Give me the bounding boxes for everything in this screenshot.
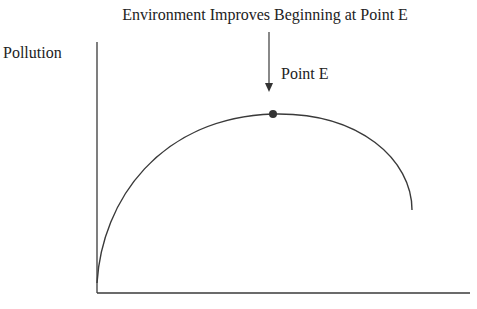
point-e-label: Point E	[281, 65, 329, 82]
y-axis-label: Pollution	[3, 44, 62, 61]
arrow-down-icon	[265, 83, 273, 92]
point-e-marker	[269, 110, 277, 118]
diagram-title: Environment Improves Beginning at Point …	[122, 6, 408, 24]
pollution-curve	[97, 114, 412, 283]
diagram-canvas: Environment Improves Beginning at Point …	[0, 0, 477, 309]
